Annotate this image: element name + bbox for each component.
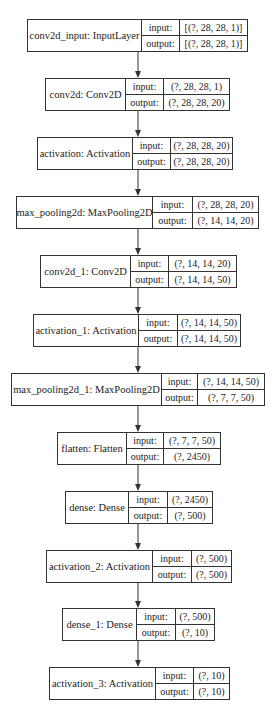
layer-name: max_pooling2d: MaxPooling2D	[17, 197, 153, 228]
io-keys: input: output:	[139, 315, 178, 346]
io-keys: input: output:	[127, 433, 164, 464]
layer-node-9: activation_2: Activation input: output: …	[46, 550, 232, 583]
layer-node-10: dense_1: Dense input: output: (?, 500) (…	[62, 608, 215, 641]
layer-name: conv2d_input: InputLayer	[28, 20, 142, 51]
output-key-label: output:	[142, 36, 179, 51]
io-values: [(?, 28, 28, 1)] [(?, 28, 28, 1)]	[180, 20, 247, 51]
layer-name: activation_3: Activation	[50, 668, 156, 699]
io-values: (?, 28, 28, 1) (?, 28, 28, 20)	[164, 79, 229, 110]
layer-name: activation: Activation	[38, 138, 133, 169]
output-shape: (?, 14, 14, 50)	[169, 272, 236, 287]
output-shape: (?, 28, 28, 20)	[171, 154, 232, 169]
input-shape: (?, 14, 14, 20)	[169, 256, 236, 272]
arrowhead-icon	[135, 307, 141, 314]
input-shape: (?, 14, 14, 50)	[198, 374, 264, 390]
output-key-label: output:	[131, 272, 168, 287]
input-key-label: input:	[139, 315, 177, 331]
arrowhead-icon	[135, 601, 141, 608]
io-values: (?, 2450) (?, 500)	[168, 492, 212, 523]
output-shape: (?, 2450)	[164, 449, 220, 464]
arrowhead-icon	[135, 189, 141, 196]
input-shape: (?, 14, 14, 50)	[178, 315, 240, 331]
arrowhead-icon	[135, 484, 141, 491]
io-keys: input: output:	[126, 79, 164, 110]
layer-name: dense_1: Dense	[63, 609, 137, 640]
arrowhead-icon	[135, 425, 141, 432]
io-values: (?, 500) (?, 10)	[176, 609, 214, 640]
layer-name: flatten: Flatten	[58, 433, 127, 464]
output-shape: (?, 14, 14, 20)	[193, 213, 258, 228]
arrowhead-icon	[135, 130, 141, 137]
output-key-label: output:	[137, 625, 175, 640]
io-values: (?, 14, 14, 50) (?, 7, 7, 50)	[198, 374, 264, 405]
io-values: (?, 28, 28, 20) (?, 28, 28, 20)	[171, 138, 232, 169]
io-keys: input: output:	[153, 551, 192, 582]
input-shape: (?, 500)	[192, 551, 231, 567]
io-keys: input: output:	[162, 374, 198, 405]
model-diagram: conv2d_input: InputLayer input: output: …	[0, 0, 280, 715]
io-keys: input: output:	[156, 668, 194, 699]
layer-name: dense: Dense	[66, 492, 129, 523]
layer-name: max_pooling2d_1: MaxPooling2D	[12, 374, 162, 405]
layer-node-7: flatten: Flatten input: output: (?, 7, 7…	[57, 432, 221, 465]
io-values: (?, 28, 28, 20) (?, 14, 14, 20)	[193, 197, 258, 228]
layer-name: activation_2: Activation	[47, 551, 153, 582]
arrowhead-icon	[135, 543, 141, 550]
output-shape: (?, 10)	[176, 625, 214, 640]
input-shape: (?, 2450)	[168, 492, 212, 508]
input-shape: (?, 500)	[176, 609, 214, 625]
input-key-label: input:	[131, 256, 168, 272]
layer-node-5: activation_1: Activation input: output: …	[33, 314, 241, 347]
input-key-label: input:	[137, 609, 175, 625]
output-shape: [(?, 28, 28, 1)]	[180, 36, 247, 51]
io-values: (?, 10) (?, 10)	[194, 668, 229, 699]
input-shape: (?, 28, 28, 20)	[193, 197, 258, 213]
output-key-label: output:	[133, 154, 170, 169]
output-key-label: output:	[153, 213, 192, 228]
input-key-label: input:	[129, 492, 167, 508]
layer-node-11: activation_3: Activation input: output: …	[49, 667, 230, 700]
io-keys: input: output:	[137, 609, 176, 640]
output-shape: (?, 14, 14, 50)	[178, 331, 240, 346]
input-shape: (?, 28, 28, 20)	[171, 138, 232, 154]
layer-name: conv2d: Conv2D	[46, 79, 126, 110]
input-key-label: input:	[133, 138, 170, 154]
io-values: (?, 500) (?, 500)	[192, 551, 231, 582]
output-shape: (?, 28, 28, 20)	[164, 95, 229, 110]
output-key-label: output:	[162, 390, 197, 405]
layer-name: conv2d_1: Conv2D	[41, 256, 131, 287]
io-values: (?, 14, 14, 20) (?, 14, 14, 50)	[169, 256, 236, 287]
output-key-label: output:	[129, 508, 167, 523]
input-key-label: input:	[156, 668, 193, 684]
layer-node-1: conv2d: Conv2D input: output: (?, 28, 28…	[45, 78, 230, 111]
io-keys: input: output:	[153, 197, 193, 228]
io-values: (?, 7, 7, 50) (?, 2450)	[164, 433, 220, 464]
input-key-label: input:	[126, 79, 163, 95]
io-values: (?, 14, 14, 50) (?, 14, 14, 50)	[178, 315, 240, 346]
arrowhead-icon	[135, 71, 141, 78]
arrowhead-icon	[135, 366, 141, 373]
output-shape: (?, 10)	[194, 684, 229, 699]
layer-node-4: conv2d_1: Conv2D input: output: (?, 14, …	[40, 255, 237, 288]
input-key-label: input:	[162, 374, 197, 390]
input-shape: (?, 7, 7, 50)	[164, 433, 220, 449]
output-key-label: output:	[126, 95, 163, 110]
io-keys: input: output:	[142, 20, 180, 51]
layer-node-0: conv2d_input: InputLayer input: output: …	[27, 19, 248, 52]
input-key-label: input:	[127, 433, 163, 449]
layer-node-3: max_pooling2d: MaxPooling2D input: outpu…	[16, 196, 259, 229]
input-shape: (?, 28, 28, 1)	[164, 79, 229, 95]
arrowhead-icon	[135, 248, 141, 255]
output-key-label: output:	[139, 331, 177, 346]
layer-name: activation_1: Activation	[34, 315, 139, 346]
layer-node-2: activation: Activation input: output: (?…	[37, 137, 233, 170]
output-shape: (?, 500)	[192, 567, 231, 582]
layer-node-8: dense: Dense input: output: (?, 2450) (?…	[65, 491, 213, 524]
io-keys: input: output:	[129, 492, 168, 523]
output-key-label: output:	[156, 684, 193, 699]
input-shape: (?, 10)	[194, 668, 229, 684]
output-key-label: output:	[153, 567, 191, 582]
input-key-label: input:	[153, 551, 191, 567]
io-keys: input: output:	[131, 256, 169, 287]
input-shape: [(?, 28, 28, 1)]	[180, 20, 247, 36]
